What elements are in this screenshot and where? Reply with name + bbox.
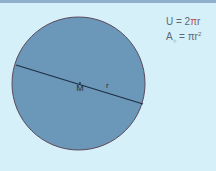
center-label: M (76, 83, 84, 93)
area-rhs: = πr (176, 31, 198, 42)
radius-label: r (106, 81, 109, 90)
center-point (79, 82, 81, 84)
area-superscript: 2 (198, 31, 201, 37)
circumference-formula: U = 2πr (166, 15, 201, 28)
circumference-rhs: r (197, 16, 200, 27)
area-formula: A○ = πr2 (166, 28, 201, 48)
area-lhs: A (166, 31, 173, 42)
diagram-canvas: M r U = 2πr A○ = πr2 (0, 0, 216, 171)
circumference-lhs: U = 2 (166, 16, 190, 27)
formula-box: U = 2πr A○ = πr2 (166, 15, 201, 48)
